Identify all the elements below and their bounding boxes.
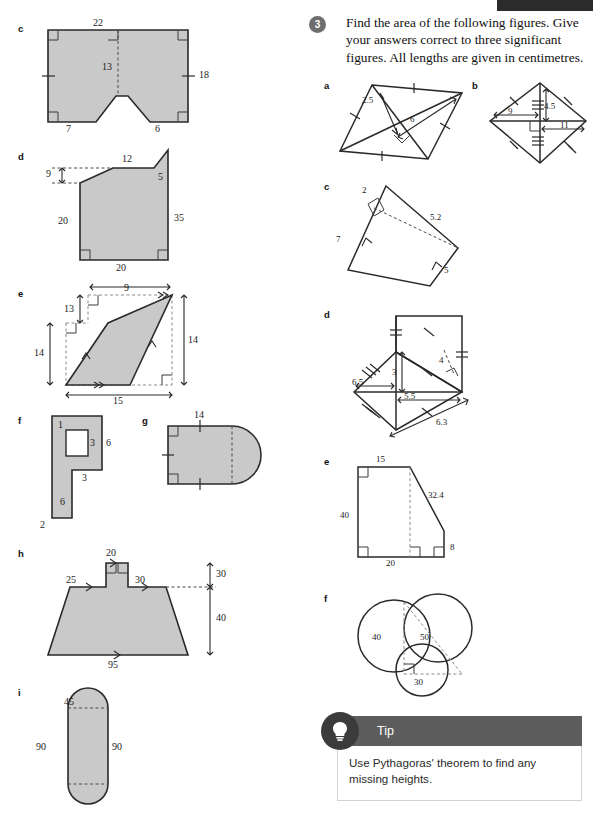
direction-marker <box>432 262 442 270</box>
dimension-45: 45 <box>64 697 74 707</box>
dimension-15: 15 <box>376 455 385 464</box>
dimension-22: 22 <box>93 18 103 28</box>
dimension-6point5: 6.5 <box>352 378 363 387</box>
figure-i-shape <box>68 688 108 804</box>
right-angle-mark <box>530 121 540 131</box>
dimension-4: 4 <box>439 356 444 365</box>
dimension-95: 95 <box>108 660 118 670</box>
dimension-7: 7 <box>336 235 341 244</box>
dimension-6: 6 <box>410 115 415 124</box>
height-dashed-line <box>374 208 458 248</box>
question-number-badge: 3 <box>309 16 326 33</box>
dimension-arrow <box>181 295 187 385</box>
figure-label-g: g <box>142 416 148 426</box>
dimension-4point5: 4.5 <box>544 102 555 111</box>
dimension-3: 3 <box>392 368 397 377</box>
figure-d-shape <box>80 150 168 260</box>
dimension-arrow <box>380 93 398 135</box>
dimension-arrow <box>47 323 53 385</box>
right-figure-c: c 2 5.2 7 5 <box>324 178 504 293</box>
figure-f-circle-right <box>404 594 472 662</box>
figure-e-shape <box>66 295 172 385</box>
dimension-20: 20 <box>106 548 116 558</box>
dimension-13: 13 <box>102 62 112 72</box>
tick-mark <box>422 368 432 376</box>
figure-g: g 14 <box>142 410 282 520</box>
right-figure-f: f 40 50 30 <box>324 590 504 705</box>
figure-label-d-right: d <box>324 310 330 320</box>
dimension-90-left: 90 <box>36 742 46 752</box>
dimension-40: 40 <box>216 613 226 623</box>
figure-label-c: c <box>18 24 23 34</box>
right-figure-e: e 15 32.4 40 8 20 <box>324 453 504 578</box>
right-figure-d: d <box>324 306 524 441</box>
figure-label-f: f <box>18 416 21 426</box>
dimension-arrow <box>399 352 405 392</box>
dimension-25: 25 <box>66 575 76 585</box>
figure-c: c 22 13 18 7 6 <box>18 18 228 133</box>
dimension-9: 9 <box>124 283 129 293</box>
direction-marker <box>362 238 372 246</box>
dimension-40: 40 <box>340 511 349 520</box>
right-angle-mark <box>358 467 368 477</box>
dimension-5point2: 5.2 <box>430 213 441 222</box>
dimension-6-leg: 6 <box>60 497 65 507</box>
dimension-arrow <box>390 398 468 437</box>
dimension-14: 14 <box>194 410 204 420</box>
lightbulb-icon <box>321 712 359 750</box>
dimension-50: 50 <box>420 633 429 642</box>
left-column: c 22 13 18 7 6 d <box>0 0 300 827</box>
figure-label-e: e <box>18 289 23 299</box>
right-angle-mark <box>162 375 172 385</box>
tip-header: Tip <box>337 716 582 746</box>
figure-c-quadrilateral <box>348 186 458 286</box>
dimension-8: 8 <box>450 543 455 552</box>
dimension-9: 9 <box>508 107 513 116</box>
dimension-5: 5 <box>444 266 449 275</box>
right-angle-mark <box>410 547 420 557</box>
dimension-arrow <box>90 284 170 290</box>
tick-mark <box>362 404 372 412</box>
dimension-7: 7 <box>66 124 71 134</box>
dimension-6-right: 6 <box>106 438 111 448</box>
dimension-arrow <box>207 587 213 655</box>
dimension-11: 11 <box>560 121 569 130</box>
tick-mark <box>440 123 450 129</box>
dimension-5point5: 5.5 <box>404 392 415 401</box>
figure-label-a: a <box>324 81 329 91</box>
dimension-3-hole: 3 <box>90 438 95 448</box>
tick-mark <box>424 328 434 336</box>
right-angle-mark <box>88 295 98 305</box>
dimension-20-bottom: 20 <box>116 263 126 273</box>
dimension-15: 15 <box>113 396 123 406</box>
dimension-12: 12 <box>122 154 132 164</box>
tip-box: Tip Use Pythagoras' theorem to find any … <box>337 716 582 801</box>
right-figure-b: b <box>472 79 593 169</box>
figure-f: f 1 3 6 3 6 2 <box>18 410 138 530</box>
dimension-3-step: 3 <box>82 473 87 483</box>
figure-b-kite <box>490 83 586 163</box>
right-angle-mark <box>446 368 458 376</box>
dimension-2: 2 <box>362 186 367 195</box>
tip-body-text: Use Pythagoras' theorem to find any miss… <box>337 746 582 801</box>
dimension-5: 5 <box>158 172 163 182</box>
right-column: 3 Find the area of the following figures… <box>300 0 593 827</box>
tick-mark <box>568 145 576 153</box>
dimension-arrow <box>207 563 213 587</box>
dimension-30-height: 30 <box>216 569 226 579</box>
dimension-20-left: 20 <box>58 216 68 226</box>
tick-mark <box>510 141 518 149</box>
figure-g-shape <box>168 426 261 484</box>
figure-f-hole <box>66 430 88 456</box>
figure-e-trapezium <box>358 467 444 557</box>
dimension-9: 9 <box>46 169 51 179</box>
figure-label-h: h <box>18 549 24 559</box>
figure-label-b: b <box>472 81 478 91</box>
dimension-32point4: 32.4 <box>428 491 444 500</box>
figure-label-c-right: c <box>324 182 329 192</box>
dimension-30-top: 30 <box>135 575 145 585</box>
right-angle-mark <box>358 547 368 557</box>
dimension-14-right: 14 <box>188 335 198 345</box>
figure-a-diagonal <box>372 85 428 159</box>
dimension-35: 35 <box>174 213 184 223</box>
